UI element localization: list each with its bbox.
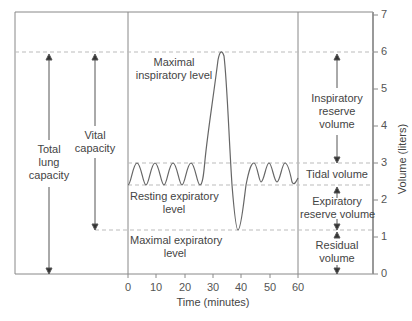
y-tick-label: 4 <box>381 119 387 131</box>
maximal-inspiratory-level-label: Maximal inspiratory level <box>130 56 218 82</box>
x-tick-label: 20 <box>179 281 191 293</box>
label-line: Maximal expiratory <box>130 234 220 247</box>
label-line: capacity <box>28 169 70 182</box>
label-line: level <box>130 247 220 260</box>
x-tick-label: 10 <box>150 281 162 293</box>
label-line: capacity <box>72 142 118 155</box>
label-line: Resting expiratory <box>130 190 218 203</box>
label-line: volume <box>302 252 372 265</box>
y-tick-label: 6 <box>381 45 387 57</box>
resting-expiratory-level-label: Resting expiratory level <box>130 190 218 216</box>
label-line: Residual <box>302 239 372 252</box>
tidal-volume-label: Tidal volume <box>302 168 372 181</box>
maximal-expiratory-level-label: Maximal expiratory level <box>130 234 220 260</box>
arrow-up-icon <box>334 187 340 193</box>
residual-volume-label: Residual volume <box>302 239 372 265</box>
arrow-up-icon <box>334 232 340 238</box>
arrow-down-icon <box>334 268 340 274</box>
x-tick-label: 30 <box>207 281 219 293</box>
label-line: inspiratory level <box>130 69 218 82</box>
y-tick-label: 3 <box>381 156 387 168</box>
label-line: Expiratory <box>300 195 374 208</box>
x-tick-label: 60 <box>292 281 304 293</box>
y-tick-label: 1 <box>381 230 387 242</box>
x-tick-label: 40 <box>235 281 247 293</box>
arrow-up-icon <box>334 54 340 60</box>
label-line: Vital <box>72 129 118 142</box>
y-tick-label: 2 <box>381 193 387 205</box>
x-tick-label: 50 <box>264 281 276 293</box>
label-line: Total <box>28 143 70 156</box>
label-line: Inspiratory <box>302 92 372 105</box>
arrow-down-icon <box>334 224 340 230</box>
y-axis-title: Volume (liters) <box>396 109 408 209</box>
y-axis <box>373 12 378 274</box>
vital-capacity-label: Vital capacity <box>72 129 118 155</box>
y-tick-label: 5 <box>381 82 387 94</box>
label-line: reserve <box>302 105 372 118</box>
y-tick-label: 0 <box>381 267 387 279</box>
label-line: Maximal <box>130 56 218 69</box>
inspiratory-reserve-volume-label: Inspiratory reserve volume <box>302 92 372 131</box>
arrow-down-icon <box>46 268 52 274</box>
expiratory-reserve-volume-label: Expiratory reserve volume <box>300 195 374 221</box>
x-axis <box>128 274 298 278</box>
y-tick-label: 7 <box>381 8 387 20</box>
label-line: volume <box>302 118 372 131</box>
label-line: reserve volume <box>300 208 374 221</box>
label-line: level <box>130 203 218 216</box>
label-line: Tidal volume <box>302 168 372 181</box>
arrow-up-icon <box>92 54 98 60</box>
arrow-down-icon <box>92 224 98 230</box>
arrow-down-icon <box>334 157 340 163</box>
x-tick-label: 0 <box>125 281 131 293</box>
x-axis-title: Time (minutes) <box>163 296 263 308</box>
label-line: lung <box>28 156 70 169</box>
arrow-up-icon <box>46 54 52 60</box>
total-lung-capacity-label: Total lung capacity <box>28 143 70 182</box>
